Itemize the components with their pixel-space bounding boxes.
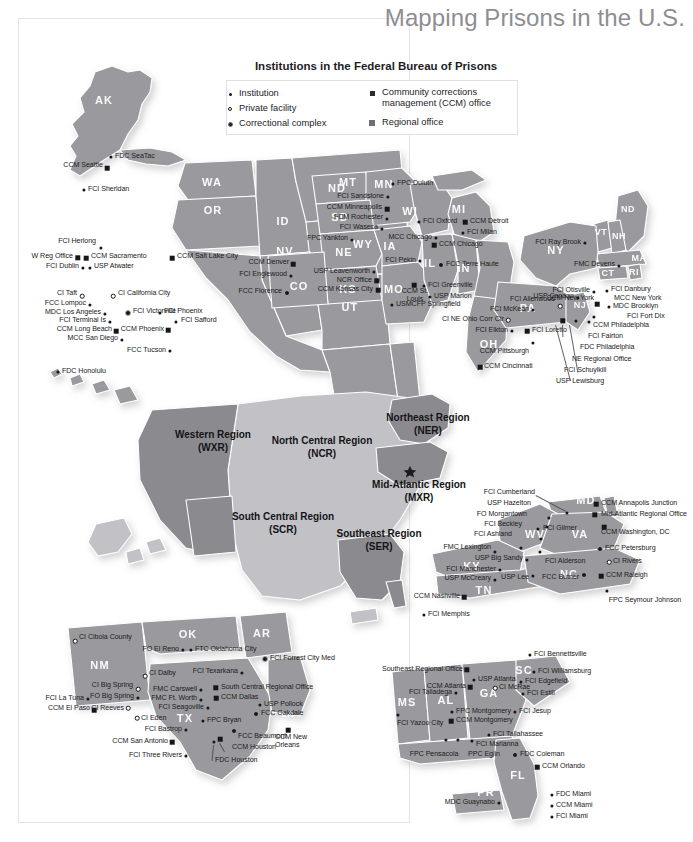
marker-ccm-denver[interactable] [291,262,296,267]
region-code: (NCR) [308,447,336,458]
label-fmc-devens: FMC Devens [574,261,615,269]
label-southeast-regional-office: Southeast Regional Office [382,666,463,674]
label-fdc-philadelphia: FDC Philadelphia [580,344,634,352]
label-fci-cumberland: FCI Cumberland [484,489,535,497]
marker-fcc-butner[interactable] [581,572,587,578]
marker-ccm-houston[interactable] [218,737,223,742]
marker-midatlantic-regional-office[interactable] [592,512,597,517]
label-ccm-minneapolis: CCM Minneapolis [327,204,382,212]
marker-ci-california-city[interactable] [111,294,116,299]
label-fcm-rochester: FCM Rochester [334,214,383,222]
marker-fcc-florence[interactable] [284,290,290,296]
marker-ci-ne-ohio-corr-ctr[interactable] [506,318,511,323]
label-fmc-lexington: FMC Lexington [444,544,491,552]
marker-ci-taft[interactable] [80,294,85,299]
label-ccm-cincinnati: CCM Cincinnati [484,363,533,371]
state-label-OK: OK [179,628,198,640]
label-fci-milan: FCI Milan [467,229,497,237]
marker-ccm-detroit[interactable] [463,220,468,225]
label-ccm-denver: CCM Denver [249,259,290,267]
label-ftc-oklahoma-city: FTC Oklahoma City [195,646,256,654]
marker-ci-cibola-county[interactable] [73,639,78,644]
label-ccm-pittsburgh: CCM Pittsburgh [480,348,529,356]
label-ccm-salt-lake-city: CCM Salt Lake City [177,253,238,261]
label-usp-atwater: USP Atwater [94,263,134,271]
marker-ccm-new-orleans[interactable] [286,728,291,733]
marker-ccm-kansas-city[interactable] [376,288,381,293]
marker-ci-rivers[interactable] [607,560,612,565]
marker-ci-mcrae[interactable] [493,686,498,691]
label-fcc-butner: FCC Butner [542,574,579,582]
marker-fcc-petersburg[interactable] [597,546,603,552]
region-code: (MXR) [405,491,434,502]
label-ccm-long-beach: CCM Long Beach [57,326,112,334]
marker-ccm-new-york[interactable] [595,302,600,307]
label-ccm-el-paso: CCM El Paso [48,705,90,713]
marker-ccm-raleigh[interactable] [599,574,604,579]
label-ccm-seattle: CCM Seattle [63,162,103,170]
label-fci-mckean: FCI McKean [490,306,529,314]
marker-ccm-dallas[interactable] [214,696,219,701]
label-ccm-houston: CCM Houston [232,744,276,752]
label-fcc-lompoc: FCC Lompoc [45,300,86,308]
label-ccm-san-antonio: CCM San Antonio [112,738,168,746]
marker-fci-allenwood[interactable] [558,304,563,309]
label-ccm-raleigh: CCM Raleigh [606,572,648,580]
marker-ci-reeves[interactable] [126,706,131,711]
marker-ccm-long-beach[interactable] [114,329,119,334]
marker-ne-regional-office[interactable] [560,318,565,323]
label-fci-edgefield: FCI Edgefield [525,678,567,686]
marker-south-central-regional-office[interactable] [213,685,218,690]
marker-ccm-salt-lake-city[interactable] [170,256,175,261]
marker-fci-loretto[interactable] [525,329,530,334]
region-code: (SCR) [269,523,297,534]
marker-fcc-oakdale[interactable] [253,711,259,717]
label-fmc-carswell: FMC Carswell [153,686,197,694]
marker-ccm-cincinnati[interactable] [478,365,483,370]
marker-ccm-orlando[interactable] [535,765,540,770]
label-ci-reeves: CI Reeves [91,705,124,713]
label-fci-phoenix: FCI Phoenix [164,308,202,316]
state-label-HI: HI [62,392,75,404]
marker-ncr-office[interactable] [374,278,379,283]
label-ppc-eglin: PPC Eglin [468,751,500,759]
label-fdc-seatac: FDC SeaTac [115,153,155,161]
marker-fdc-coleman[interactable] [512,752,518,758]
label-fci-bastrop: FCI Bastrop [145,726,182,734]
marker-ccm-montgomery[interactable] [449,719,454,724]
marker-ci-eden[interactable] [135,716,140,721]
label-ccm-kansas-city: CCM Kansas City [318,286,373,294]
label-fo-morgantown: FO Morgantown [477,511,527,519]
label-ci-dalby: CI Dalby [149,670,176,678]
marker-ccm-chicago[interactable] [432,243,437,248]
state-label-MA: MA [631,253,646,263]
marker-ccm-phoenix[interactable] [166,328,171,333]
label-fci-sheridan: FCI Sheridan [88,186,129,194]
marker-ccm-atlanta[interactable] [468,685,473,690]
marker-fcc-terre-haute[interactable] [438,262,444,268]
marker-ccm-nashville[interactable] [462,595,467,600]
label-usp-lewisburg: USP Lewisburg [556,378,604,386]
marker-ccm-minneapolis[interactable] [385,207,390,212]
label-fci-forrest-city-med: FCI Forrest City Med [270,655,335,663]
marker-ci-big-spring[interactable] [136,687,141,692]
marker-ccm-sacramento[interactable] [84,256,89,261]
marker-w-reg-office[interactable] [75,255,80,260]
label-fci-talladega: FCI Talladega [409,689,452,697]
state-label-CT: CT [601,268,614,278]
marker-fci-forrest-city-med[interactable] [262,656,268,662]
label-fpc-yankton: FPC Yankton [307,235,348,243]
label-fpc-duluth: FPC Duluth [397,180,433,188]
marker-ccm-seattle[interactable] [105,166,110,171]
marker-fci-victorville[interactable] [125,310,131,316]
label-fci-memphis: FCI Memphis [428,611,470,619]
label-fdc-miami: FDC Miami [556,791,591,799]
label-fpc-bryan: FPC Bryan [207,717,241,725]
marker-fcc-beaumont[interactable] [231,728,237,734]
state-label-SC: SC [515,664,532,676]
marker-ci-dalby[interactable] [143,674,148,679]
marker-ccm-annapolis-junction[interactable] [594,502,599,507]
marker-southeast-regional-office[interactable] [464,667,469,672]
marker-ccm-san-antonio[interactable] [170,740,175,745]
label-usp-lee: USP Lee [501,574,529,582]
